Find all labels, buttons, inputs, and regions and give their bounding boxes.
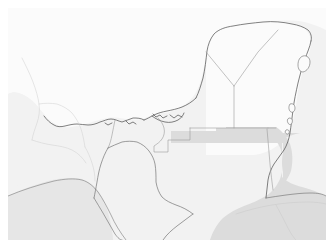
offshore-cay-north (289, 104, 295, 113)
offshore-cay-tiny (285, 130, 289, 134)
offshore-cay-south (287, 118, 292, 125)
map-canvas[interactable] (0, 0, 334, 248)
map-figure (0, 0, 334, 248)
